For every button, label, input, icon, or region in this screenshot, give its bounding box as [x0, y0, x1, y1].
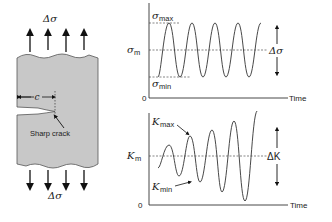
kmax-pointer — [177, 125, 188, 134]
svg-text:max: max — [159, 14, 173, 23]
range-label: ΔK — [267, 151, 281, 162]
y-min-label: K min — [151, 181, 172, 194]
origin-label: 0 — [142, 94, 147, 103]
crack-label: Sharp crack — [30, 129, 70, 138]
svg-text:min: min — [160, 185, 172, 194]
k-chart: 0 Time K max K m K min ΔK — [126, 111, 308, 210]
svg-text:K: K — [151, 181, 160, 192]
x-axis-label: Time — [289, 94, 307, 103]
y-max-label: K max — [151, 116, 174, 129]
svg-text:m: m — [135, 154, 141, 163]
crack-length-label: c — [34, 92, 39, 102]
origin-label: 0 — [138, 201, 143, 210]
specimen-body — [17, 54, 98, 168]
svg-text:min: min — [159, 82, 171, 91]
svg-text:K: K — [126, 150, 135, 161]
svg-text:m: m — [134, 48, 140, 57]
svg-text:max: max — [160, 120, 174, 129]
fatigue-diagram: Δσ c Sharp crack Δσ 0 Time — [0, 0, 332, 222]
stress-chart: 0 Time σ max σ m σ min Δσ — [127, 3, 307, 103]
kmin-pointer — [175, 182, 190, 186]
x-axis-label: Time — [290, 201, 308, 210]
svg-text:K: K — [151, 116, 160, 127]
y-mean-label: K m — [126, 150, 141, 163]
specimen: Δσ c Sharp crack Δσ — [17, 13, 98, 201]
bottom-load-label: Δσ — [47, 190, 63, 201]
top-load-label: Δσ — [42, 13, 58, 24]
top-load-arrows — [30, 32, 84, 52]
y-min-label: σ min — [152, 78, 171, 91]
y-mean-label: σ m — [127, 44, 140, 57]
range-label: Δσ — [268, 45, 284, 56]
bottom-load-arrows — [30, 170, 84, 187]
y-max-label: σ max — [152, 10, 173, 23]
